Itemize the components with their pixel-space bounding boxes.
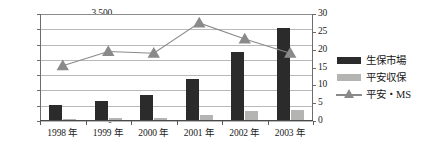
category-tick	[86, 121, 87, 125]
right-tick-mark	[313, 32, 316, 33]
chart-container: 05001,0001,5002,0002,5003,0003,500 05101…	[0, 0, 429, 161]
legend-label: 生保市場	[362, 55, 406, 66]
category-tick	[40, 121, 41, 125]
plot-area: 平安・MS 1998 年: 15.5平安・MS 1999 年: 19.5平安・M…	[40, 14, 313, 121]
marker-平安・MS-2001: 平安・MS 2001 年: 27.5	[193, 17, 205, 28]
right-axis-tick-label: 25	[318, 27, 327, 37]
legend-item-1[interactable]: 生保市場	[336, 52, 429, 69]
legend-line-marker-icon	[336, 86, 362, 103]
right-tick-mark	[313, 68, 316, 69]
category-tick	[313, 121, 314, 125]
right-axis-tick-label: 15	[318, 63, 327, 73]
category-label-2001: 2001 年	[177, 128, 223, 138]
marker-平安・MS-2000: 平安・MS 2000 年: 19	[148, 47, 160, 58]
category-tick	[177, 121, 178, 125]
marker-平安・MS-2002: 平安・MS 2002 年: 23	[239, 33, 251, 44]
legend-swatch-icon	[336, 69, 362, 86]
line-path-平安・MS	[63, 23, 291, 66]
legend-triangle-icon	[344, 89, 354, 98]
category-label-2000: 2000 年	[131, 128, 177, 138]
category-tick	[268, 121, 269, 125]
legend-bar-swatch	[337, 74, 361, 81]
legend-label: 平安収保	[362, 72, 406, 83]
right-axis-tick-label: 0	[318, 116, 323, 126]
right-axis-tick-label: 5	[318, 98, 323, 108]
right-tick-mark	[313, 85, 316, 86]
category-label-2003: 2003 年	[268, 128, 314, 138]
right-axis-tick-label: 30	[318, 9, 327, 19]
right-axis-tick-label: 10	[318, 80, 327, 90]
category-label-1998: 1998 年	[40, 128, 86, 138]
legend-bar-swatch	[337, 57, 361, 64]
line-series-layer: 平安・MS 1998 年: 15.5平安・MS 1999 年: 19.5平安・M…	[40, 14, 313, 121]
marker-平安・MS-1999: 平安・MS 1999 年: 19.5	[102, 45, 114, 56]
category-label-2002: 2002 年	[222, 128, 268, 138]
legend-label: 平安・MS	[362, 89, 411, 100]
right-tick-mark	[313, 50, 316, 51]
right-tick-mark	[313, 14, 316, 15]
chart-legend: 生保市場平安収保平安・MS	[336, 52, 429, 103]
category-label-1999: 1999 年	[86, 128, 132, 138]
right-tick-mark	[313, 103, 316, 104]
legend-item-3[interactable]: 平安・MS	[336, 86, 429, 103]
category-tick	[131, 121, 132, 125]
legend-swatch-icon	[336, 52, 362, 69]
category-tick	[222, 121, 223, 125]
right-axis-tick-label: 20	[318, 45, 327, 55]
legend-item-2[interactable]: 平安収保	[336, 69, 429, 86]
